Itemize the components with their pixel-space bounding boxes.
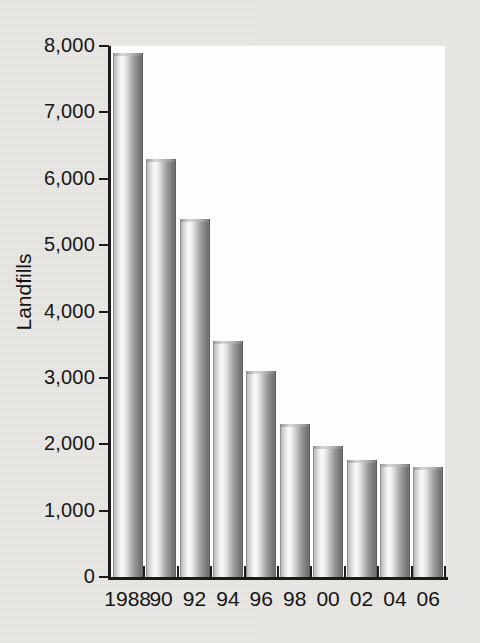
bar-top-cap xyxy=(214,341,242,344)
bar-top-cap xyxy=(414,467,442,470)
bar-top-cap xyxy=(348,460,376,463)
x-tick-mark xyxy=(310,566,312,578)
x-tick-mark xyxy=(277,566,279,578)
bar xyxy=(380,464,410,577)
bar xyxy=(113,53,143,577)
bar xyxy=(246,371,276,577)
bar-top-cap xyxy=(114,53,142,56)
x-tick-mark xyxy=(377,566,379,578)
bar-chart-figure: 01,0002,0003,0004,0005,0006,0007,0008,00… xyxy=(0,0,480,643)
y-tick-mark xyxy=(99,178,109,180)
bar-top-cap xyxy=(181,219,209,222)
x-tick-mark xyxy=(244,566,246,578)
bar xyxy=(347,460,377,577)
y-tick-mark xyxy=(99,443,109,445)
y-tick-mark xyxy=(99,576,109,578)
bar xyxy=(180,219,210,577)
y-tick-mark xyxy=(99,510,109,512)
bar xyxy=(313,446,343,577)
y-tick-mark xyxy=(99,111,109,113)
x-tick-mark xyxy=(210,566,212,578)
x-tick-mark xyxy=(344,566,346,578)
bar-top-cap xyxy=(381,464,409,467)
y-tick-label: 2,000 xyxy=(3,433,95,453)
y-tick-mark xyxy=(99,244,109,246)
bar-top-cap xyxy=(314,446,342,449)
x-tick-mark xyxy=(177,566,179,578)
y-tick-label: 0 xyxy=(3,566,95,586)
bar xyxy=(413,467,443,577)
y-tick-mark xyxy=(99,45,109,47)
x-tick-mark xyxy=(411,566,413,578)
y-axis-title: Landfills xyxy=(12,212,36,372)
bar xyxy=(213,341,243,577)
bar xyxy=(146,159,176,577)
y-tick-mark xyxy=(99,377,109,379)
bar-top-cap xyxy=(247,371,275,374)
bar-top-cap xyxy=(281,424,309,427)
y-tick-label: 6,000 xyxy=(3,168,95,188)
y-tick-label: 7,000 xyxy=(3,101,95,121)
bar xyxy=(280,424,310,577)
bar-top-cap xyxy=(147,159,175,162)
y-tick-label: 1,000 xyxy=(3,500,95,520)
x-tick-label: 06 xyxy=(398,588,458,609)
x-tick-mark xyxy=(143,566,145,578)
y-axis-line xyxy=(108,46,111,580)
x-tick-mark xyxy=(444,566,446,578)
y-tick-mark xyxy=(99,311,109,313)
y-tick-label: 8,000 xyxy=(3,35,95,55)
